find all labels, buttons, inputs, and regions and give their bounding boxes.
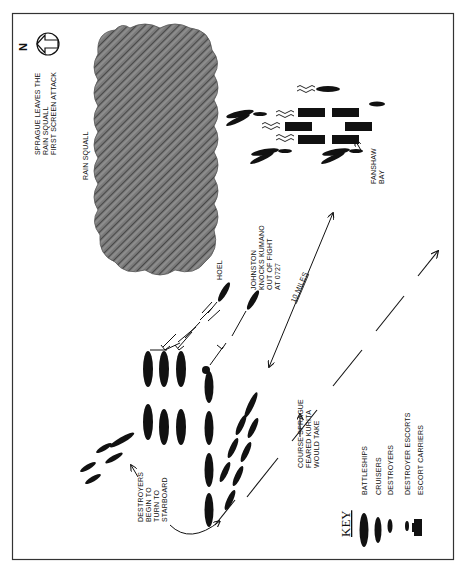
destroyers-label-1: DESTROYERS <box>137 472 144 522</box>
hoel: HOEL <box>202 260 232 313</box>
heading-line-1: SPRAGUE LEAVES THE <box>34 73 41 155</box>
johnston: JOHNSTON KNOCKS KUMANO OUT OF FIGHT AT 0… <box>232 225 281 336</box>
rain-squall-label: RAIN SQUALL <box>82 132 90 181</box>
escort-carrier <box>298 108 325 117</box>
escort-carrier <box>345 122 372 131</box>
escort-carrier <box>332 108 359 117</box>
legend-label: ESCORT CARRIERS <box>417 425 424 495</box>
johnston-label-3: OUT OF FIGHT <box>266 238 273 290</box>
destroyer-smoke-pair <box>249 147 292 166</box>
scale-label: 10 MILES <box>289 271 308 304</box>
johnston-label-2: KNOCKS KUMANO <box>258 225 265 290</box>
legend: KEY BATTLESHIPS CRUISERS DESTROYERS DEST… <box>338 412 424 547</box>
battleship-column-left <box>143 351 186 445</box>
legend-item-destroyers: DESTROYERS <box>387 445 394 533</box>
legend-label: DESTROYERS <box>387 445 394 495</box>
legend-label: DESTROYER ESCORTS <box>404 412 411 495</box>
hoel-label: HOEL <box>216 260 223 280</box>
battle-map: N SPRAGUE LEAVES THE RAIN SQUALL FIRST S… <box>0 0 465 565</box>
heading-line-2: RAIN SQUALL <box>42 107 50 156</box>
cruiser-column <box>202 343 226 527</box>
destroyer-smoke-pair <box>225 108 267 128</box>
heading-text: SPRAGUE LEAVES THE RAIN SQUALL FIRST SCR… <box>34 72 57 155</box>
destroyers-turning <box>79 430 136 485</box>
turn-arrow <box>170 521 220 534</box>
fanshaw-bay-label-1: FANSHAW <box>370 148 377 184</box>
destroyer-squadron <box>218 391 261 511</box>
destroyers-label-3: TURN TO <box>153 489 160 522</box>
fanshaw-bay-label-2: BAY <box>378 170 385 184</box>
north-arrow-icon: N <box>17 33 59 55</box>
escort-carrier <box>298 135 325 144</box>
legend-item-escort-carriers: ESCORT CARRIERS <box>412 425 424 536</box>
destroyers-turn-label: DESTROYERS BEGIN TO TURN TO STARBOARD <box>137 472 168 522</box>
legend-item-destroyer-escorts: DESTROYER ESCORTS <box>404 412 411 531</box>
johnston-label-1: JOHNSTON <box>250 250 257 290</box>
compass-label: N <box>17 43 29 51</box>
escort-carrier <box>285 122 312 131</box>
course-label-3: WOULD TAKE <box>313 420 320 468</box>
legend-title: KEY <box>338 510 353 537</box>
escort-carrier <box>332 135 359 144</box>
wakes <box>150 308 220 350</box>
destroyers-label-2: BEGIN TO <box>145 487 152 522</box>
legend-label: CRUISERS <box>375 457 382 495</box>
legend-label: BATTLESHIPS <box>361 446 368 495</box>
legend-item-cruisers: CRUISERS <box>375 457 383 543</box>
destroyer-smoke-pair <box>320 147 363 166</box>
destroyers-label-4: STARBOARD <box>161 477 168 522</box>
heading-line-3: FIRST SCREEN ATTACK <box>50 72 57 155</box>
johnston-label-4: AT 0727 <box>274 263 281 290</box>
legend-item-battleships: BATTLESHIPS <box>360 446 369 547</box>
course-label-2: FEARED KURITA <box>305 410 312 468</box>
rain-squall <box>94 24 218 275</box>
carrier-group: FANSHAW BAY <box>225 86 385 185</box>
